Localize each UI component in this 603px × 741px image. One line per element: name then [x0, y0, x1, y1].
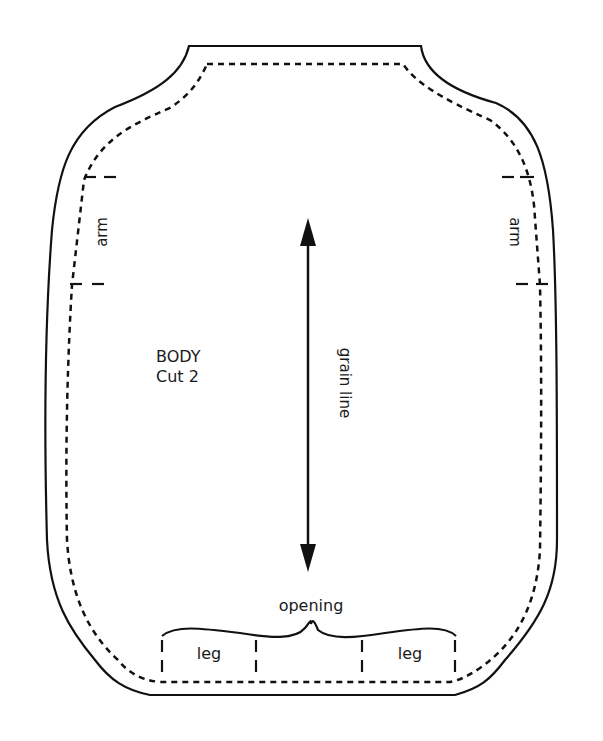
- arm-right-label: arm: [506, 217, 524, 247]
- opening-label: opening: [279, 596, 344, 615]
- leg-right-label: leg: [398, 644, 422, 663]
- piece-cut-count-label: Cut 2: [156, 367, 199, 386]
- arm-left-label: arm: [93, 217, 111, 247]
- piece-name-label: BODY: [156, 347, 201, 366]
- stitching-line: [66, 64, 541, 682]
- opening-brace: [162, 621, 456, 637]
- body-pattern-diagram: arm arm BODY Cut 2 grain line opening le…: [0, 0, 603, 741]
- grain-line-label: grain line: [336, 348, 354, 418]
- leg-left-label: leg: [197, 644, 221, 663]
- grain-line-arrow-icon: [300, 218, 316, 572]
